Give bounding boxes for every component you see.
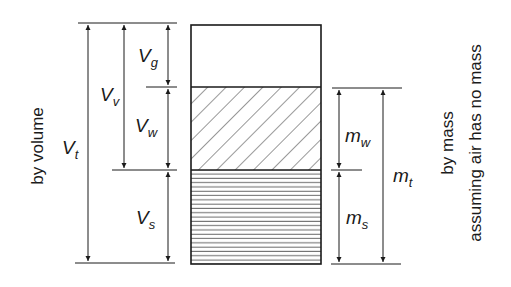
volume-dimensions bbox=[75, 23, 177, 263]
by-mass-text: by mass bbox=[438, 111, 457, 174]
ms-label: ms bbox=[346, 207, 369, 232]
phase-box bbox=[191, 25, 321, 264]
mt-label: mt bbox=[393, 165, 414, 190]
gas-phase bbox=[191, 25, 321, 87]
mass-dimensions bbox=[331, 88, 402, 264]
mw-label: mw bbox=[345, 125, 372, 150]
by-volume-text: by volume bbox=[28, 107, 47, 184]
assumption-text: assuming air has no mass bbox=[466, 44, 485, 241]
solid-phase bbox=[191, 170, 321, 264]
water-phase bbox=[191, 87, 321, 170]
phase-diagram: Vt Vv Vg Vw Vs mw ms mt by volume by mas… bbox=[0, 0, 511, 287]
vs-label: Vs bbox=[136, 207, 156, 232]
vw-label: Vw bbox=[135, 115, 159, 140]
vg-label: Vg bbox=[138, 45, 159, 70]
vv-label: Vv bbox=[100, 84, 121, 109]
vt-label: Vt bbox=[62, 137, 80, 162]
